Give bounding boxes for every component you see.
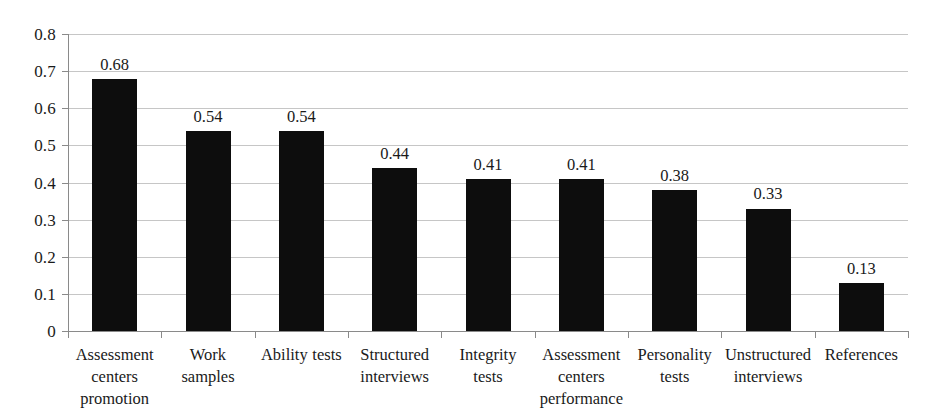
x-axis-category-label: Ability tests [249,344,354,366]
y-axis-tick-mark [62,294,68,295]
y-axis-tick-mark [62,145,68,146]
y-axis-tick-label: 0 [0,323,56,340]
bar-value-label: 0.41 [441,157,534,174]
plot-area [68,34,908,331]
x-axis-category-label: References [809,344,914,366]
bar [186,131,231,331]
x-axis-category-label: Worksamples [155,344,260,388]
x-axis-category-label-line: tests [622,366,727,388]
x-axis-tick-mark [815,331,816,338]
y-axis-tick-label: 0.4 [0,175,56,192]
x-axis-category-label-line: Assessment [529,344,634,366]
bar-value-label: 0.33 [721,186,814,203]
x-axis-category-label-line: Assessment [62,344,167,366]
x-axis-category-label: Integritytests [435,344,540,388]
x-axis-category-label-line: Work [155,344,260,366]
x-axis-category-label: Structuredinterviews [342,344,447,388]
bar-value-label: 0.68 [68,57,161,74]
x-axis-category-label-line: performance [529,388,634,410]
x-axis-tick-mark [255,331,256,338]
y-axis-tick-label: 0.6 [0,100,56,117]
y-axis-line [68,34,69,332]
bar-value-label: 0.44 [348,146,441,163]
x-axis-tick-mark [628,331,629,338]
y-axis-tick-label: 0.8 [0,26,56,43]
x-axis-category-label: Assessmentcentersperformance [529,344,634,409]
x-axis-tick-mark [161,331,162,338]
x-axis-category-label-line: Integrity [435,344,540,366]
x-axis-tick-mark [348,331,349,338]
x-axis-category-label-line: centers [529,366,634,388]
bar [92,79,137,331]
y-axis-tick-mark [62,257,68,258]
x-axis-tick-mark [68,331,69,338]
x-axis-category-label-line: promotion [62,388,167,410]
y-axis-tick-mark [62,34,68,35]
axis-baseline [68,331,908,332]
x-axis-category-label: Personalitytests [622,344,727,388]
x-axis-tick-mark [721,331,722,338]
y-axis-tick-mark [62,183,68,184]
bar-value-label: 0.38 [628,168,721,185]
y-axis-tick-label: 0.5 [0,137,56,154]
x-axis-category-label-line: Structured [342,344,447,366]
x-axis-category-label-line: centers [62,366,167,388]
bar [839,283,884,331]
y-axis-tick-mark [62,220,68,221]
bar [279,131,324,331]
bar-value-label: 0.13 [815,261,908,278]
bar-value-label: 0.41 [535,157,628,174]
bar [746,209,791,332]
y-axis-tick-mark [62,108,68,109]
gridline [68,71,908,72]
x-axis-tick-mark [441,331,442,338]
y-axis-tick-label: 0.3 [0,212,56,229]
x-axis-tick-mark [908,331,909,338]
x-axis-category-label-line: samples [155,366,260,388]
x-axis-category-label-line: interviews [342,366,447,388]
y-axis-tick-label: 0.7 [0,63,56,80]
bar-value-label: 0.54 [255,109,348,126]
bar [372,168,417,331]
x-axis-category-label-line: tests [435,366,540,388]
bar-value-label: 0.54 [161,109,254,126]
bar [466,179,511,331]
bar-chart: 0.80.70.60.50.40.30.20.10 0.680.540.540.… [0,0,935,417]
x-axis-category-label-line: interviews [715,366,820,388]
bar [652,190,697,331]
gridline [68,34,908,35]
x-axis-category-label-line: References [809,344,914,366]
bar [559,179,604,331]
x-axis-category-label: Unstructuredinterviews [715,344,820,388]
x-axis-category-label-line: Unstructured [715,344,820,366]
y-axis-tick-label: 0.1 [0,286,56,303]
x-axis-category-label-line: Ability tests [249,344,354,366]
x-axis-tick-mark [535,331,536,338]
y-axis-tick-label: 0.2 [0,249,56,266]
x-axis-category-label-line: Personality [622,344,727,366]
x-axis-category-label: Assessmentcenterspromotion [62,344,167,409]
